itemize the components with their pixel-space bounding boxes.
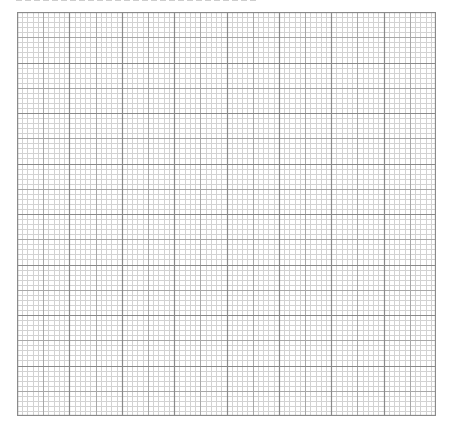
clipped-caption [16,0,256,3]
caption-ghost-line [16,0,256,1]
graph-paper-grid [17,12,436,416]
grid-lines [17,12,436,416]
